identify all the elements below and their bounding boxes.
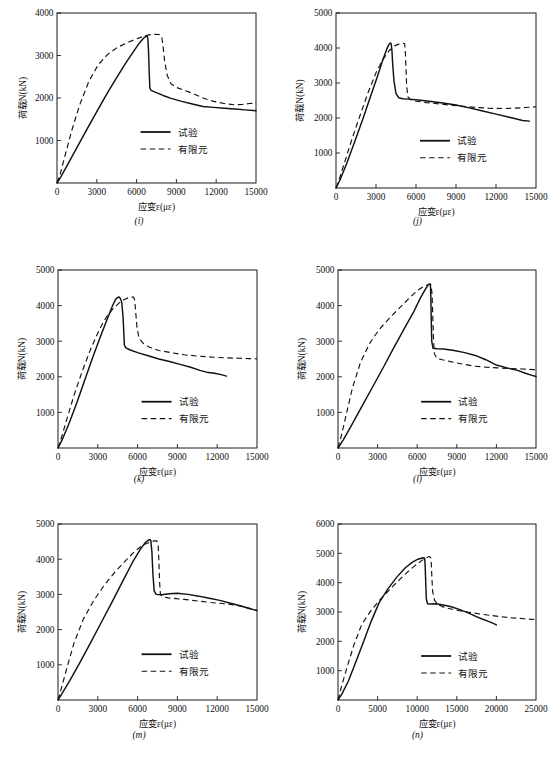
chart-panel-n: 0500010000150002000025000100020003000400… (278, 510, 557, 758)
x-tick-label: 25000 (524, 704, 548, 714)
x-tick-label: 3000 (89, 704, 108, 714)
legend-label-fem: 有限元 (458, 668, 488, 679)
x-tick-label: 6000 (127, 187, 146, 197)
y-axis-title: 荷载N(kN) (296, 338, 308, 380)
series-test-k (58, 297, 226, 448)
series-fem-n (338, 557, 536, 700)
x-tick-label: 10000 (406, 704, 430, 714)
plot-frame-l (338, 270, 536, 448)
plot-frame-i (57, 13, 256, 183)
x-tick-label: 12000 (484, 192, 508, 202)
plot-frame-j (336, 13, 536, 188)
chart-svg-i: 030006000900012000150001000200030004000应… (0, 0, 278, 252)
y-tick-label: 2000 (316, 372, 335, 382)
panel-caption-k: (k) (0, 474, 278, 484)
x-tick-label: 0 (55, 187, 60, 197)
chart-svg-l: 0300060009000120001500010002000300040005… (278, 252, 557, 510)
legend-label-fem: 有限元 (457, 152, 487, 163)
y-axis-title: 荷载N(kN) (296, 591, 308, 633)
y-tick-label: 2000 (36, 372, 55, 382)
x-tick-label: 0 (56, 452, 61, 462)
panel-caption-i: (i) (0, 216, 278, 226)
panel-caption-j: (j) (278, 216, 557, 226)
chart-svg-m: 0300060009000120001500010002000300040005… (0, 510, 278, 758)
y-tick-label: 3000 (316, 607, 335, 617)
x-tick-label: 15000 (524, 452, 548, 462)
x-tick-label: 12000 (485, 452, 509, 462)
y-tick-label: 6000 (316, 519, 335, 529)
x-tick-label: 12000 (205, 187, 229, 197)
y-tick-label: 5000 (36, 265, 55, 275)
y-axis-title: 荷载N(kN) (17, 77, 29, 119)
panel-caption-m: (m) (0, 730, 278, 740)
y-tick-label: 5000 (314, 8, 333, 18)
x-tick-label: 3000 (367, 192, 386, 202)
y-tick-label: 1000 (314, 148, 333, 158)
chart-panel-l: 0300060009000120001500010002000300040005… (278, 252, 557, 510)
x-tick-label: 15000 (245, 452, 269, 462)
x-tick-label: 20000 (485, 704, 509, 714)
x-tick-label: 0 (334, 192, 339, 202)
chart-panel-m: 0300060009000120001500010002000300040005… (0, 510, 278, 758)
legend-label-test: 试验 (457, 135, 477, 146)
chart-svg-k: 0300060009000120001500010002000300040005… (0, 252, 278, 510)
x-tick-label: 3000 (368, 452, 387, 462)
series-test-m (58, 540, 257, 700)
x-tick-label: 6000 (407, 192, 426, 202)
legend-label-test: 试验 (458, 396, 478, 407)
legend-label-fem: 有限元 (179, 413, 209, 424)
x-tick-label: 15000 (245, 704, 269, 714)
y-tick-label: 4000 (316, 301, 335, 311)
chart-svg-j: 0300060009000120001500010002000300040005… (278, 0, 557, 252)
x-tick-label: 9000 (447, 192, 466, 202)
series-test-i (57, 36, 256, 183)
x-tick-label: 0 (336, 704, 341, 714)
y-tick-label: 4000 (316, 578, 335, 588)
y-tick-label: 4000 (35, 8, 54, 18)
x-tick-label: 0 (56, 704, 61, 714)
series-fem-m (58, 541, 257, 700)
panel-caption-l: (l) (278, 474, 557, 484)
chart-panel-k: 0300060009000120001500010002000300040005… (0, 252, 278, 510)
y-tick-label: 1000 (36, 408, 55, 418)
series-fem-l (338, 284, 536, 448)
x-tick-label: 3000 (89, 452, 108, 462)
x-axis-title: 应变ε(με) (139, 718, 176, 730)
legend-label-test: 试验 (179, 649, 199, 660)
x-tick-label: 6000 (128, 704, 147, 714)
y-tick-label: 5000 (316, 549, 335, 559)
y-tick-label: 4000 (314, 43, 333, 53)
x-tick-label: 6000 (128, 452, 147, 462)
y-tick-label: 3000 (314, 78, 333, 88)
x-tick-label: 15000 (244, 187, 268, 197)
x-tick-label: 0 (336, 452, 341, 462)
chart-panel-i: 030006000900012000150001000200030004000应… (0, 0, 278, 252)
y-axis-title: 荷载N(kN) (16, 591, 28, 633)
y-tick-label: 2000 (314, 113, 333, 123)
y-tick-label: 1000 (316, 666, 335, 676)
plot-frame-n (338, 524, 536, 700)
chart-panel-j: 0300060009000120001500010002000300040005… (278, 0, 557, 252)
y-axis-title: 荷载N(kN) (294, 79, 306, 121)
legend-label-fem: 有限元 (179, 666, 209, 677)
x-tick-label: 3000 (88, 187, 107, 197)
x-tick-label: 15000 (445, 704, 469, 714)
series-fem-j (336, 43, 536, 188)
y-tick-label: 5000 (36, 519, 55, 529)
x-tick-label: 12000 (206, 704, 230, 714)
series-test-n (338, 558, 496, 700)
x-axis-title: 应变ε(με) (419, 718, 456, 730)
y-tick-label: 1000 (36, 660, 55, 670)
x-tick-label: 9000 (448, 452, 467, 462)
chart-svg-n: 0500010000150002000025000100020003000400… (278, 510, 557, 758)
y-tick-label: 3000 (316, 337, 335, 347)
figure-panel-grid: 030006000900012000150001000200030004000应… (0, 0, 557, 758)
y-tick-label: 3000 (36, 337, 55, 347)
x-tick-label: 12000 (206, 452, 230, 462)
y-tick-label: 1000 (316, 408, 335, 418)
y-tick-label: 3000 (35, 51, 54, 61)
y-tick-label: 2000 (316, 637, 335, 647)
x-tick-label: 9000 (168, 704, 187, 714)
legend-label-test: 试验 (178, 127, 198, 138)
legend-label-fem: 有限元 (178, 144, 208, 155)
